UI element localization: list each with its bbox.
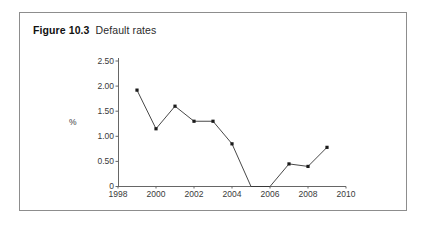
figure-number: Figure 10.3 xyxy=(33,24,90,36)
figure-caption: Figure 10.3Default rates xyxy=(33,24,156,37)
figure-page: Figure 10.3Default rates % 00.501.001.50… xyxy=(0,0,427,225)
figure-title: Default rates xyxy=(96,24,157,36)
figure-frame: Figure 10.3Default rates xyxy=(19,12,407,211)
